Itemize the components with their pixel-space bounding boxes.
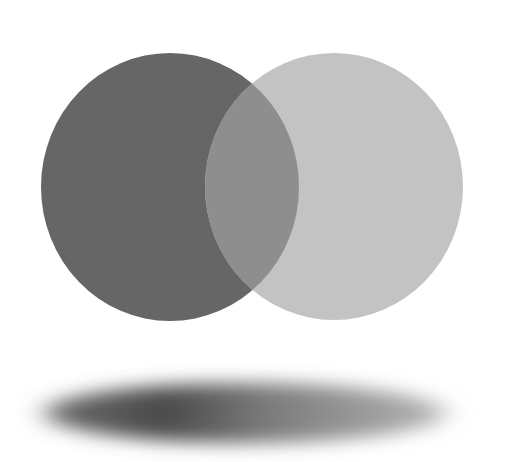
shadow xyxy=(45,383,445,443)
venn-diagram xyxy=(0,0,510,462)
shadow-ellipse xyxy=(45,383,445,443)
